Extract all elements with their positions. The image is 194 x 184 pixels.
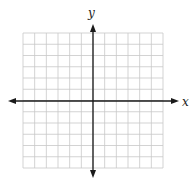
x-axis-right-arrow-icon [171, 98, 179, 104]
y-axis-down-arrow-icon [90, 170, 96, 178]
y-axis-up-arrow-icon [90, 24, 96, 32]
y-axis-label: y [87, 6, 95, 20]
x-axis-left-arrow-icon [8, 98, 16, 104]
coordinate-plane: x y [0, 0, 194, 184]
x-axis-label: x [182, 95, 189, 109]
axes [8, 24, 179, 178]
